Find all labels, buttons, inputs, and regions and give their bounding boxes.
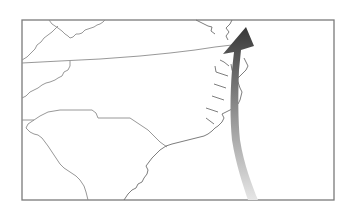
map-svg: [0, 0, 361, 212]
map-container: [0, 0, 361, 212]
